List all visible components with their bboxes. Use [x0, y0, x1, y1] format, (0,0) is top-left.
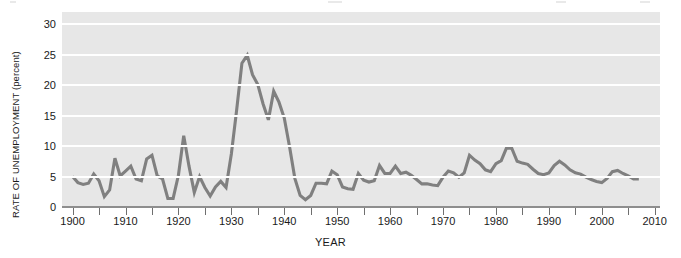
gridline — [62, 84, 660, 86]
x-axis-tick-label: 1950 — [325, 216, 349, 227]
series-polyline — [73, 55, 639, 199]
y-axis-tick-label: 15 — [20, 110, 56, 121]
x-axis-tick-labels: 1900191019201930194019501960197019801990… — [0, 216, 681, 234]
x-axis-tick — [549, 208, 550, 215]
x-axis-tick — [522, 208, 523, 215]
x-axis-tick — [628, 208, 629, 215]
x-axis-tick-label: 1900 — [60, 216, 84, 227]
x-axis-tick-label: 2000 — [590, 216, 614, 227]
x-axis-ticks — [62, 208, 660, 216]
plot-area — [62, 12, 660, 207]
y-axis-tick-label: 10 — [20, 141, 56, 152]
x-axis-tick — [417, 208, 418, 215]
x-axis-tick — [311, 208, 312, 215]
x-axis-tick — [231, 208, 232, 215]
cropped-artifact-strip — [0, 0, 681, 4]
x-axis-title: YEAR — [0, 236, 681, 248]
x-axis-tick — [99, 208, 100, 215]
x-axis-tick-label: 1970 — [431, 216, 455, 227]
x-axis-tick — [152, 208, 153, 215]
x-axis-tick — [258, 208, 259, 215]
x-axis-tick — [73, 208, 74, 215]
gridline — [62, 145, 660, 147]
y-axis-tick-label: 30 — [20, 19, 56, 30]
unemployment-rate-chart: RATE OF UNEMPLOYMENT (percent) 051015202… — [0, 0, 681, 258]
x-axis-tick-label: 1920 — [166, 216, 190, 227]
x-axis-tick — [443, 208, 444, 215]
x-axis-tick — [284, 208, 285, 215]
x-axis-title-text: YEAR — [315, 236, 346, 248]
x-axis-tick — [205, 208, 206, 215]
y-axis-tick-label: 5 — [20, 171, 56, 182]
x-axis-tick — [364, 208, 365, 215]
x-axis-tick — [655, 208, 656, 215]
gridline — [62, 115, 660, 117]
x-axis-tick — [390, 208, 391, 215]
gridline — [62, 176, 660, 178]
y-axis-title: RATE OF UNEMPLOYMENT (percent) — [0, 0, 16, 220]
x-axis-tick — [602, 208, 603, 215]
x-axis-tick-label: 2010 — [642, 216, 666, 227]
y-axis-tick-label: 20 — [20, 80, 56, 91]
x-axis-tick-label: 1960 — [378, 216, 402, 227]
unemployment-line-series — [62, 12, 660, 207]
x-axis-tick-label: 1930 — [219, 216, 243, 227]
gridline — [62, 54, 660, 56]
x-axis-tick — [178, 208, 179, 215]
x-axis-tick-label: 1980 — [484, 216, 508, 227]
y-axis-tick-label: 0 — [20, 202, 56, 213]
x-axis-tick-label: 1990 — [537, 216, 561, 227]
gridline — [62, 23, 660, 25]
x-axis-tick-label: 1910 — [113, 216, 137, 227]
x-axis-tick — [126, 208, 127, 215]
x-axis-tick — [337, 208, 338, 215]
x-axis-tick — [496, 208, 497, 215]
x-axis-tick-label: 1940 — [272, 216, 296, 227]
y-axis-tick-label: 25 — [20, 49, 56, 60]
x-axis-tick — [469, 208, 470, 215]
x-axis-tick — [575, 208, 576, 215]
